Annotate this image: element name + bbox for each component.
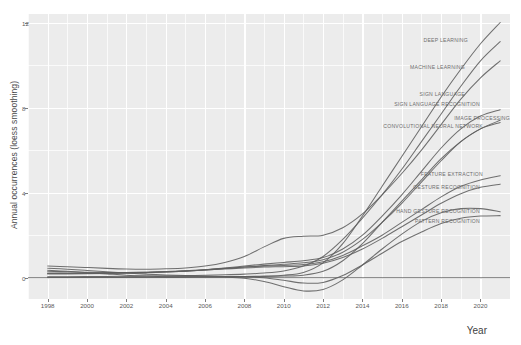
series-label: FEATURE EXTRACTION <box>421 171 483 177</box>
x-tick-label: 2000 <box>80 302 94 309</box>
series-label: DEEP LEARNING <box>424 37 469 43</box>
x-tick-label: 2002 <box>119 302 133 309</box>
x-tick-label: 2006 <box>198 302 212 309</box>
series-line <box>48 184 500 274</box>
x-tick-label: 2016 <box>395 302 409 309</box>
series-label: CONVOLUTIONAL NEURAL NETWORK <box>383 123 483 129</box>
series-lines <box>28 14 510 299</box>
y-tick-label: 8 <box>22 104 25 111</box>
y-axis-title: Annual occurrences (loess smoothing) <box>9 5 19 305</box>
series-line <box>48 122 500 277</box>
series-label: HAND GESTURE RECOGNITION <box>396 208 480 214</box>
series-label: PATTERN RECOGNITION <box>415 218 480 224</box>
x-tick-label: 2012 <box>316 302 330 309</box>
x-tick-label: 2018 <box>434 302 448 309</box>
y-tick-label: 4 <box>22 189 25 196</box>
y-tick-label: 0 <box>22 274 25 281</box>
y-tick-label: 12 <box>22 19 29 26</box>
x-tick-label: 1998 <box>41 302 55 309</box>
series-label: SIGN LANGUAGE RECOGNITION <box>394 101 480 107</box>
series-label: MACHINE LEARNING <box>410 64 465 70</box>
series-line <box>48 23 500 278</box>
series-label: SIGN LANGUAGE <box>420 91 465 97</box>
series-label: GESTURE RECOGNITION <box>413 184 480 190</box>
x-tick-label: 2020 <box>474 302 488 309</box>
series-line <box>48 120 500 273</box>
x-tick-label: 2014 <box>356 302 370 309</box>
series-line <box>48 42 500 277</box>
x-tick-label: 2010 <box>277 302 291 309</box>
chart-container: Annual occurrences (loess smoothing) 199… <box>0 0 521 345</box>
series-label: IMAGE PROCESSING <box>454 115 510 121</box>
x-tick-label: 2008 <box>238 302 252 309</box>
plot-panel <box>28 14 510 299</box>
x-tick-label: 2004 <box>159 302 173 309</box>
series-line <box>48 176 500 273</box>
series-line <box>48 110 500 273</box>
x-axis-title: Year <box>0 325 521 336</box>
